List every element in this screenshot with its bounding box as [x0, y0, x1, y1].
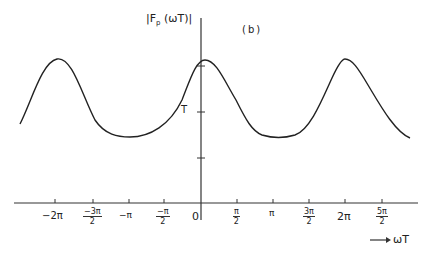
x-tick-label-minus-pi: −π [119, 210, 132, 220]
x-tick-label-pi-2: π2 [233, 207, 240, 226]
panel-label: (b) [242, 24, 262, 35]
x-tick-label-minus-2pi: −2π [42, 210, 63, 221]
x-tick-label-minus-3pi-2: −3π2 [83, 207, 102, 226]
x-tick-label-2pi: 2π [337, 210, 351, 223]
x-tick-label-5pi-2: 5π2 [376, 207, 388, 226]
plot-canvas [0, 0, 430, 256]
x-tick-label-3pi-2: 3π2 [303, 207, 315, 226]
x-axis-label: ωT [393, 233, 409, 246]
x-tick-label-minus-pi-2: −π2 [156, 207, 170, 226]
x-tick-label-pi: π [269, 208, 274, 218]
x-tick-label-zero: 0 [192, 210, 199, 223]
y-axis-label: |Fp (ωT)| [146, 12, 192, 27]
figure: |Fp (ωT)| (b) T −2π −3π2 −π −π2 0 π2 π 3… [0, 0, 430, 256]
y-tick-label-T: T [181, 104, 187, 115]
arrow-icon [386, 237, 391, 243]
response-curve [20, 59, 410, 138]
